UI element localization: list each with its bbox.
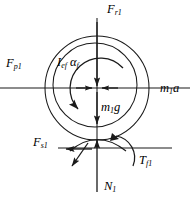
label-Tf1-subscript: f1 [146, 159, 152, 168]
label-m1g-subscript: 1 [110, 106, 114, 115]
label-m1g: m1g [101, 101, 120, 114]
label-m1a-subscript: 1 [169, 87, 173, 96]
label-Fs1: Fs1 [33, 136, 48, 149]
label-N1: N1 [104, 180, 116, 193]
label-m1g-symbol: m [101, 100, 110, 114]
label-inertia-moment: Iefαf [57, 56, 79, 69]
label-m1a-trailing: a [173, 81, 179, 95]
label-Fs1-symbol: F [33, 135, 41, 149]
label-alpha-symbol: α [70, 55, 77, 69]
label-inertia-subscript: ef [61, 61, 67, 70]
label-N1-subscript: 1 [112, 185, 116, 194]
label-Fp1-subscript: p1 [14, 62, 22, 71]
label-Fp1: Fp1 [6, 57, 22, 70]
label-Fs1-subscript: s1 [41, 141, 48, 150]
label-Fr1-symbol: F [107, 2, 115, 16]
label-m1a: m1a [160, 82, 179, 95]
label-Tf1-symbol: T [139, 153, 146, 167]
label-m1g-trailing: g [114, 100, 120, 114]
arrow-contact-diagonal [72, 143, 88, 166]
diagram-canvas [0, 0, 190, 202]
label-m1a-symbol: m [160, 81, 169, 95]
label-Fp1-symbol: F [6, 56, 14, 70]
label-alpha-subscript: f [77, 61, 79, 70]
label-Fr1-subscript: r1 [115, 8, 122, 17]
label-Tf1: Tf1 [139, 154, 152, 167]
arc-friction-torque-head [110, 133, 119, 141]
label-Fr1: Fr1 [107, 3, 122, 16]
free-body-diagram-figure: Fr1 Fp1 m1a Iefαf m1g Fs1 Tf1 N1 [0, 0, 190, 202]
